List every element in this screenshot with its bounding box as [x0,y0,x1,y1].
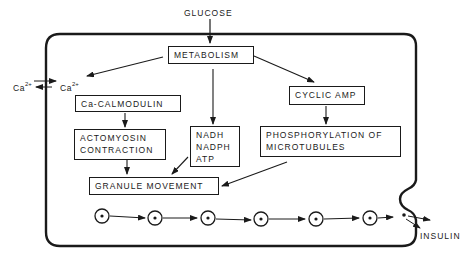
actomyosin-contraction-box: ACTOMYOSIN CONTRACTION [74,129,166,160]
granule-chain [95,209,430,228]
phosphorylation-microtubules-box: PHOSPHORYLATION OF MICROTUBULES [260,126,401,157]
granule-movement-box: GRANULE MOVEMENT [89,177,219,195]
glucose-label: GLUCOSE [184,8,233,19]
intracellular-calcium-label: Ca2+ [60,79,79,94]
nadh-nadph-atp-box: NADH NADPH ATP [190,126,240,167]
cyclic-amp-box: CYCLIC AMP [289,86,365,105]
insulin-secretion-diagram: GLUCOSE Ca2+ Ca2+ INSULIN METABOLISM Ca-… [0,0,473,263]
membrane [60,35,470,77]
insulin-label: INSULIN [420,231,461,242]
metabolism-box: METABOLISM [168,46,254,64]
ca-calmodulin-box: Ca-CALMODULIN [75,95,181,112]
extracellular-calcium-label: Ca2+ [13,79,32,94]
